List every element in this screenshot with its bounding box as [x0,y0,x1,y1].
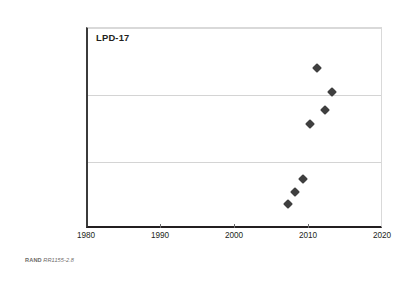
series-label: LPD-17 [96,33,130,42]
gridline [88,162,381,163]
x-tick-label: 1990 [151,232,169,240]
data-point-marker [312,63,322,73]
data-point-marker [298,174,308,184]
plot-area [86,27,382,228]
data-point-marker [290,187,300,197]
data-point-marker [283,199,293,209]
gridline [88,95,381,96]
footnote-source: RAND [25,257,42,263]
x-tick-mark [308,224,309,228]
chart-figure: 0$10,000,000$20,000,000$30,000,000 19801… [0,0,408,282]
data-point-marker [320,105,330,115]
x-axis-labels: 19801990200020102020 [0,232,408,248]
figure-footnote: RAND RR1155-2.8 [25,258,74,264]
x-tick-label: 2020 [373,232,391,240]
data-point-marker [305,120,315,130]
gridline [88,28,381,29]
x-tick-mark [234,224,235,228]
x-tick-label: 2000 [225,232,243,240]
x-tick-label: 2010 [299,232,317,240]
x-tick-mark [160,224,161,228]
footnote-id: RR1155-2.8 [43,257,74,263]
x-tick-label: 1980 [77,232,95,240]
